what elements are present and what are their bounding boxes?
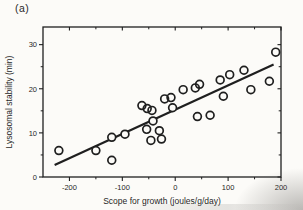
y-tick-label: 20: [29, 85, 37, 94]
regression-line: [55, 65, 274, 166]
y-tick-label: 0: [33, 173, 37, 182]
scatter-chart: -200-10001002000102030Scope for growth (…: [0, 0, 303, 210]
figure-panel: (a) -200-10001002000102030Scope for grow…: [0, 0, 303, 210]
x-axis-label: Scope for growth (joules/g/day): [103, 196, 221, 206]
x-tick-label: -200: [62, 183, 77, 192]
x-tick-label: 200: [275, 183, 288, 192]
x-tick-label: -100: [115, 183, 130, 192]
x-tick-label: 0: [173, 183, 177, 192]
x-tick-label: 100: [222, 183, 235, 192]
y-axis-label: Lysosomal stability (min): [4, 55, 14, 148]
y-tick-label: 10: [29, 129, 37, 138]
y-tick-label: 30: [29, 40, 37, 49]
